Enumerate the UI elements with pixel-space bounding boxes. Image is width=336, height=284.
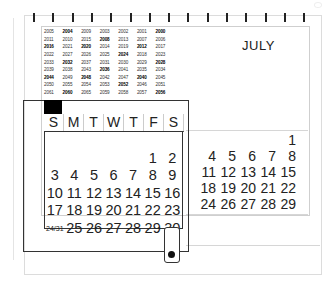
back-day-cell [236,132,256,148]
day-cell: 29 [143,220,163,238]
year-cell: 2022 [44,52,63,57]
year-cell: 2013 [118,37,137,42]
year-cell: 2002 [118,29,137,34]
binder-ring [265,13,267,22]
year-cell: 2001 [137,29,156,34]
year-cell: 2044 [44,75,63,80]
year-cell: 2034 [155,67,174,72]
binder-ring [207,13,209,22]
day-cell: 21 [123,202,143,220]
selector-tab[interactable] [44,100,62,114]
binder-ring [52,13,54,22]
year-cell: 2037 [81,60,100,65]
year-cell: 2043 [81,67,100,72]
binder-ring [245,13,247,22]
week-row: 24/31252627282930 [45,220,182,238]
back-day-cell: 24 [196,196,216,212]
day-cell: 19 [84,202,104,220]
binder-ring [149,13,151,22]
year-cell: 2057 [137,90,156,95]
binder-ring [91,13,93,22]
back-day-cell: 14 [256,164,276,180]
back-day-cell: 12 [216,164,236,180]
back-day-cell: 8 [276,148,296,164]
back-week-row: 2426272829 [196,196,296,212]
year-cell: 2019 [118,44,137,49]
back-week-row: 1 [196,132,296,148]
year-cell: 2055 [63,82,82,87]
day-cell: 25 [65,220,85,238]
year-cell: 2051 [155,82,174,87]
weekday-label: W [104,114,124,131]
year-cell: 2056 [155,90,174,95]
year-cell: 2029 [137,60,156,65]
year-cell: 2049 [63,75,82,80]
day-grid: 123456789101112131415161718192021222324/… [44,131,183,229]
binder-ring [33,13,35,22]
day-cell [65,150,85,168]
back-day-cell: 27 [236,196,256,212]
day-cell: 22 [143,202,163,220]
year-cell: 2031 [100,60,119,65]
year-cell: 2026 [81,52,100,57]
year-row: 2033203220372031203020292028 [44,58,174,66]
back-sheet-bottom [186,214,308,215]
day-cell: 24/31 [45,220,65,238]
week-row: 17181920212223 [45,202,182,220]
binder-ring [284,13,286,22]
day-cell: 23 [162,202,182,220]
year-row: 2022202720262025202420182023 [44,51,174,59]
back-day-cell: 15 [276,164,296,180]
year-cell: 2030 [118,60,137,65]
month-title: JULY [242,38,275,53]
day-cell: 7 [123,167,143,185]
year-cell: 2035 [137,67,156,72]
year-cell: 2014 [100,44,119,49]
year-cell: 2065 [81,90,100,95]
back-sheet-divider [186,130,308,131]
week-row: 12 [45,150,182,168]
back-day-cell [216,132,236,148]
day-cell [123,132,143,150]
year-cell: 2018 [137,52,156,57]
slider-clip[interactable] [164,227,180,263]
year-cell: 2020 [81,44,100,49]
backboard-divider [186,245,320,246]
corner-mark [314,2,322,8]
day-cell [143,132,163,150]
year-cell: 2036 [100,67,119,72]
day-cell [45,150,65,168]
binder-ring [110,13,112,22]
year-row: 2044204920482042204720402045 [44,74,174,82]
year-cell: 2025 [100,52,119,57]
weekday-label: F [144,114,164,131]
day-cell: 6 [104,167,124,185]
back-day-cell: 26 [216,196,236,212]
year-row: 2016202120202014201920122017 [44,43,174,51]
year-cell: 2012 [137,44,156,49]
day-cell [104,132,124,150]
year-cell: 2040 [137,75,156,80]
year-cell: 2033 [44,60,63,65]
binder-ring [187,13,189,22]
year-cell: 2038 [63,67,82,72]
day-cell [123,150,143,168]
year-cell: 2011 [44,37,63,42]
week-row: 3456789 [45,167,182,185]
weekday-label: T [84,114,104,131]
year-cell: 2000 [155,29,174,34]
year-cell: 2058 [118,90,137,95]
back-day-cell: 5 [216,148,236,164]
day-cell: 16 [162,185,182,203]
day-cell: 10 [45,185,65,203]
year-row: 2039203820432036204120352034 [44,66,174,74]
back-sheet-days: 145678111213141518192021222426272829 [196,132,296,212]
back-day-cell: 7 [256,148,276,164]
year-row: 2050205520542053205220462051 [44,81,174,89]
day-cell: 17 [45,202,65,220]
binder-ring [130,13,132,22]
back-day-cell [256,132,276,148]
weekday-label: M [64,114,84,131]
year-cell: 2032 [63,60,82,65]
day-cell [84,132,104,150]
